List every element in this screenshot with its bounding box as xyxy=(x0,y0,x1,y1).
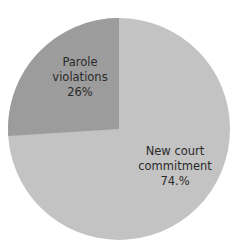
label-parole-line1: Parole xyxy=(44,55,116,70)
label-court-line1: New court xyxy=(130,144,220,159)
label-parole-line2: violations xyxy=(44,70,116,85)
label-new-court-commitment: New court commitment 74.% xyxy=(130,144,220,189)
pie-svg xyxy=(0,0,240,249)
label-court-line2: commitment xyxy=(130,159,220,174)
label-parole-violations: Parole violations 26% xyxy=(44,55,116,100)
label-parole-value: 26% xyxy=(44,85,116,100)
label-court-value: 74.% xyxy=(130,174,220,189)
pie-chart: Parole violations 26% New court commitme… xyxy=(0,0,240,249)
